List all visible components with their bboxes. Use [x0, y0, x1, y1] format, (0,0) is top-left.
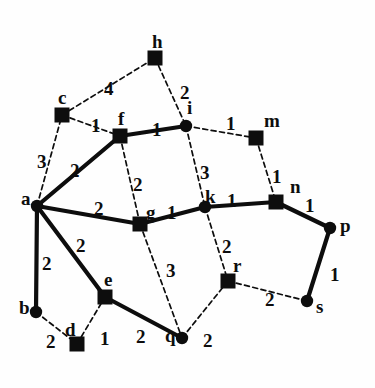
edge-weight-b-d: 2: [46, 332, 56, 351]
node-label-a: a: [21, 189, 31, 208]
node-label-m: m: [264, 111, 280, 130]
graph-node-h[interactable]: [148, 51, 163, 66]
node-label-d: d: [65, 320, 76, 339]
edge-weight-p-s: 1: [330, 265, 340, 284]
node-label-k: k: [205, 187, 216, 206]
edge-weight-i-m: 1: [226, 114, 236, 133]
graph-canvas: [0, 0, 375, 388]
edge-weight-i-k: 3: [200, 163, 210, 182]
edge-weight-d-e: 1: [100, 329, 110, 348]
graph-edge-i-m: [186, 126, 256, 138]
graph-edge-n-p: [276, 202, 330, 228]
graph-edge-a-b: [36, 206, 37, 312]
edge-weight-f-g: 2: [133, 175, 143, 194]
edge-weight-k-r: 2: [222, 237, 232, 256]
node-label-b: b: [19, 298, 30, 317]
graph-edge-p-s: [307, 228, 330, 301]
graph-node-c[interactable]: [55, 108, 70, 123]
graph-node-a[interactable]: [31, 200, 43, 212]
edge-weight-e-q: 2: [136, 327, 146, 346]
node-label-g: g: [146, 203, 156, 222]
edge-weight-f-i: 1: [152, 120, 162, 139]
node-label-e: e: [104, 270, 112, 289]
node-label-c: c: [58, 88, 66, 107]
node-label-s: s: [316, 297, 323, 316]
graph-edge-a-e: [37, 206, 105, 297]
edge-weight-a-f: 2: [70, 161, 80, 180]
edge-weight-a-b: 2: [42, 254, 52, 273]
edge-weight-m-n: 1: [272, 167, 282, 186]
edge-weight-h-i: 2: [180, 83, 190, 102]
edge-weight-a-c: 3: [37, 152, 47, 171]
edge-weight-k-n: 1: [227, 191, 237, 210]
edge-weight-c-f: 1: [91, 116, 101, 135]
graph-node-m[interactable]: [249, 131, 264, 146]
edge-weight-g-q: 3: [166, 261, 176, 280]
graph-node-n[interactable]: [269, 195, 284, 210]
graph-node-s[interactable]: [301, 295, 313, 307]
graph-edge-a-g: [37, 206, 140, 224]
node-label-n: n: [290, 177, 301, 196]
edge-weight-q-r: 2: [203, 331, 213, 350]
graph-diagram: hcfimagknpbedqrs421113223121112223122122: [0, 0, 375, 388]
graph-node-f[interactable]: [113, 129, 128, 144]
edge-weight-a-e: 2: [76, 236, 86, 255]
graph-node-i[interactable]: [180, 120, 192, 132]
node-label-r: r: [233, 256, 241, 275]
edge-weight-r-s: 2: [265, 290, 275, 309]
graph-node-e[interactable]: [98, 290, 113, 305]
edge-weight-n-p: 1: [305, 196, 315, 215]
node-label-f: f: [118, 109, 124, 128]
graph-node-q[interactable]: [176, 332, 188, 344]
node-label-p: p: [340, 216, 351, 235]
node-label-q: q: [165, 326, 176, 345]
graph-node-p[interactable]: [324, 222, 336, 234]
edge-weight-g-k: 1: [167, 203, 177, 222]
edge-weight-a-g: 2: [94, 199, 104, 218]
node-label-h: h: [152, 32, 163, 51]
graph-node-b[interactable]: [30, 306, 42, 318]
edge-weight-c-h: 4: [104, 79, 114, 98]
